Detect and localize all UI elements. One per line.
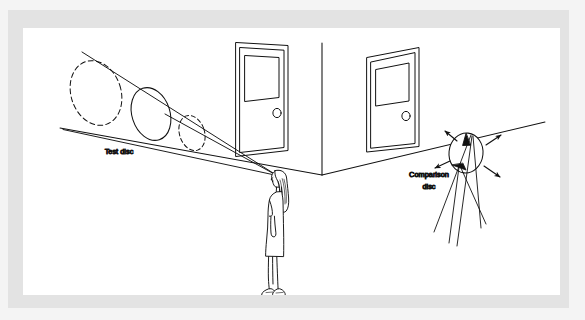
- comparison-disc-label-line2: disc: [422, 182, 435, 191]
- right-wall-baseline: [322, 122, 545, 175]
- observer-figure: [262, 170, 289, 297]
- cone-ray-lower: [63, 130, 277, 176]
- arrow-lower-left: [435, 161, 450, 168]
- observer-legs: [268, 257, 278, 291]
- left-door-knob[interactable]: [273, 108, 281, 117]
- comparison-disc-label-line1: Comparison: [409, 170, 449, 179]
- right-door[interactable]: [367, 48, 419, 153]
- arrow-upper-right: [486, 135, 501, 145]
- comparison-disc-group: [434, 131, 501, 246]
- scene-illustration: Test disc: [0, 0, 585, 320]
- test-disc-group: [62, 54, 209, 154]
- cone-ray-inner: [165, 114, 277, 176]
- arrow-upper-left: [445, 131, 457, 141]
- test-disc-near: [175, 112, 210, 154]
- right-door-knob[interactable]: [402, 111, 410, 120]
- test-disc-middle: [125, 82, 178, 145]
- left-door[interactable]: [236, 43, 288, 157]
- right-door-inner-frame: [371, 53, 415, 149]
- test-disc-far: [62, 54, 130, 132]
- test-disc-label: Test disc: [105, 147, 134, 156]
- figure-root: Test disc: [0, 0, 585, 320]
- arrow-lower-right: [484, 166, 500, 177]
- left-door-window-panel: [245, 56, 279, 102]
- right-door-window-panel: [376, 63, 409, 106]
- right-door-slab: [367, 48, 419, 153]
